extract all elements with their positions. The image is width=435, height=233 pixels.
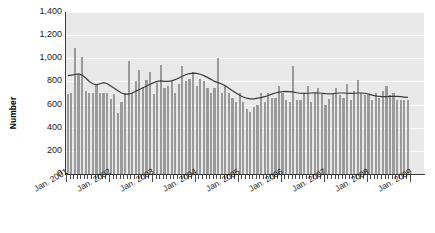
chart-figure: Number 1,4001,2001,0008006004002000 Jan.… — [0, 0, 435, 233]
x-axis-minor-tick — [288, 175, 289, 179]
y-axis-tick-label: 1,400 — [28, 7, 62, 16]
x-axis-minor-tick — [338, 175, 339, 179]
y-axis-tick-label: 800 — [28, 76, 62, 85]
x-axis-minor-tick — [381, 175, 382, 179]
x-axis-minor-tick — [206, 175, 207, 179]
x-axis-minor-tick — [70, 175, 71, 179]
x-axis-minor-tick — [249, 175, 250, 179]
x-axis-minor-tick — [327, 175, 328, 179]
x-axis-minor-tick — [116, 175, 117, 179]
x-axis-minor-tick — [241, 175, 242, 179]
y-axis-tick-label: 1,200 — [28, 30, 62, 39]
x-axis-minor-tick — [292, 175, 293, 179]
x-axis-minor-tick — [123, 175, 124, 179]
x-axis-minor-tick — [335, 175, 336, 179]
x-axis-minor-tick — [295, 175, 296, 179]
x-axis-minor-tick — [245, 175, 246, 179]
x-axis-minor-tick — [370, 175, 371, 179]
y-axis-title-text: Number — [8, 97, 18, 130]
x-axis-tick-labels: Jan. 2001Jan. 2002Jan. 2003Jan. 2004Jan.… — [0, 183, 435, 233]
y-axis-title: Number — [6, 78, 20, 148]
x-axis-minor-tick — [73, 175, 74, 179]
y-axis-tick-label: 600 — [28, 100, 62, 109]
x-axis-minor-tick — [331, 175, 332, 179]
x-axis-minor-tick — [113, 175, 114, 179]
x-axis-minor-tick — [156, 175, 157, 179]
trend-line-path — [68, 73, 408, 99]
x-axis-minor-tick — [198, 175, 199, 179]
x-axis-minor-tick — [163, 175, 164, 179]
x-axis-minor-tick — [377, 175, 378, 179]
x-axis-minor-tick — [120, 175, 121, 179]
x-axis-minor-tick — [209, 175, 210, 179]
x-axis-minor-tick — [202, 175, 203, 179]
x-axis-ticks — [66, 175, 424, 183]
y-axis-tick-label: 1,000 — [28, 53, 62, 62]
x-axis-minor-tick — [284, 175, 285, 179]
x-axis-minor-tick — [77, 175, 78, 179]
y-axis-tick-label: 200 — [28, 146, 62, 155]
y-axis-tick-label: 400 — [28, 123, 62, 132]
plot-area — [66, 12, 424, 174]
x-axis-minor-tick — [80, 175, 81, 179]
x-axis-minor-tick — [252, 175, 253, 179]
x-axis-minor-tick — [374, 175, 375, 179]
x-axis-minor-tick — [166, 175, 167, 179]
trend-line-series — [66, 12, 424, 174]
x-axis-minor-tick — [159, 175, 160, 179]
